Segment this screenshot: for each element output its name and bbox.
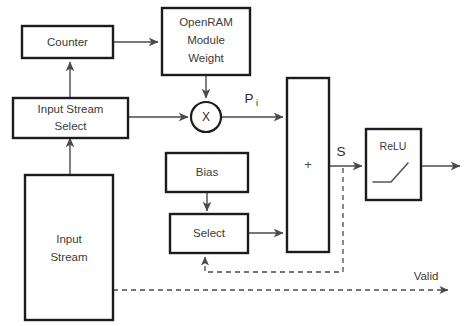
input-stream-select-label-line2: Select [55, 120, 88, 132]
sum-label: S [336, 144, 345, 159]
input-stream-select-label-line1: Input Stream [38, 103, 104, 115]
relu-label: ReLU [380, 140, 407, 152]
select-label: Select [193, 227, 226, 239]
valid-label: Valid [414, 270, 439, 282]
block-relu[interactable]: ReLU [366, 129, 421, 200]
openram-label-line2: Module [187, 34, 225, 46]
product-label: P [244, 91, 253, 106]
block-bias[interactable]: Bias [166, 153, 248, 192]
adder-label: + [304, 157, 312, 172]
block-input-stream[interactable]: Input Stream [25, 175, 113, 320]
block-select[interactable]: Select [170, 214, 248, 253]
input-stream-box [25, 175, 113, 320]
multiplier-label: X [202, 110, 210, 124]
block-multiplier[interactable]: X [191, 102, 221, 132]
block-openram-module-weight[interactable]: OpenRAM Module Weight [162, 8, 250, 75]
openram-label-line1: OpenRAM [179, 16, 233, 28]
block-diagram-canvas: Counter OpenRAM Module Weight Input Stre… [0, 0, 468, 326]
signal-label-product: P i [244, 91, 258, 109]
openram-label-line3: Weight [188, 52, 224, 64]
bias-label: Bias [196, 166, 219, 178]
input-stream-label-line1: Input [56, 233, 82, 245]
block-counter[interactable]: Counter [22, 26, 113, 58]
block-adder[interactable]: + [287, 78, 329, 252]
input-stream-label-line2: Stream [50, 251, 87, 263]
block-diagram-svg: Counter OpenRAM Module Weight Input Stre… [0, 0, 468, 326]
product-subscript: i [256, 98, 258, 108]
block-input-stream-select[interactable]: Input Stream Select [13, 98, 128, 138]
counter-label: Counter [47, 36, 88, 48]
